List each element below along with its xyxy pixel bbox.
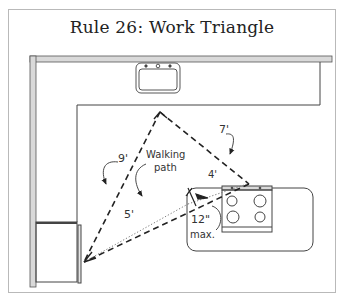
refrigerator — [36, 222, 81, 283]
wall — [30, 56, 332, 287]
label-max: max. — [190, 229, 215, 240]
kitchen-plan: 9' 7' Walking path 4' 5' 12" max. — [0, 0, 344, 304]
sink-arrow-icon — [154, 112, 167, 119]
label-walking: Walking — [146, 149, 185, 160]
label-5ft: 5' — [124, 208, 134, 221]
label-9ft: 9' — [118, 152, 128, 165]
landing-marker — [186, 188, 208, 206]
label-4ft: 4' — [208, 169, 217, 180]
label-12in: 12" — [191, 213, 210, 226]
sink — [136, 63, 180, 93]
label-7ft: 7' — [219, 123, 229, 136]
label-path: path — [154, 162, 177, 173]
